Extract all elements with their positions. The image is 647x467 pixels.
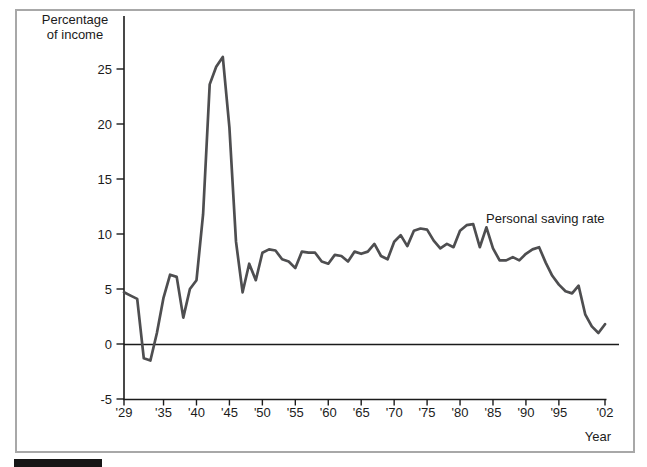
y-axis-title-line1: Percentage <box>25 12 125 27</box>
x-tick-label: '55 <box>287 405 304 420</box>
x-tick-label: '65 <box>353 405 370 420</box>
x-tick-label: '29 <box>116 405 133 420</box>
x-tick-label: '45 <box>221 405 238 420</box>
y-tick-label: -5 <box>100 392 112 407</box>
figure-personal-saving-rate: { "figure": { "y_axis_title_line1": "Per… <box>0 0 647 467</box>
y-axis-title: Percentage of income <box>25 12 125 43</box>
x-tick-label: '50 <box>254 405 271 420</box>
saving-rate-curve <box>124 57 605 361</box>
x-tick-label: '80 <box>452 405 469 420</box>
y-tick-label: 0 <box>105 337 112 352</box>
footer-black-bar <box>14 459 102 467</box>
x-tick-label: '75 <box>419 405 436 420</box>
y-tick-label: 20 <box>98 117 112 132</box>
y-axis-title-line2: of income <box>25 27 125 42</box>
y-tick-label: 25 <box>98 62 112 77</box>
x-tick-label: '02 <box>597 405 614 420</box>
x-tick-label: '95 <box>550 405 567 420</box>
y-tick-label: 5 <box>105 282 112 297</box>
series-annotation: Personal saving rate <box>486 211 605 226</box>
y-tick-label: 10 <box>98 227 112 242</box>
x-tick-label: '90 <box>517 405 534 420</box>
y-tick-label: 15 <box>98 172 112 187</box>
x-tick-label: '85 <box>485 405 502 420</box>
saving-rate-chart: 2520151050-5'29'35'40'45'50'55'60'65'70'… <box>0 0 647 467</box>
x-tick-label: '60 <box>320 405 337 420</box>
x-tick-label: '40 <box>188 405 205 420</box>
x-tick-label: '35 <box>155 405 172 420</box>
x-axis-caption: Year <box>555 429 611 444</box>
x-tick-label: '70 <box>386 405 403 420</box>
